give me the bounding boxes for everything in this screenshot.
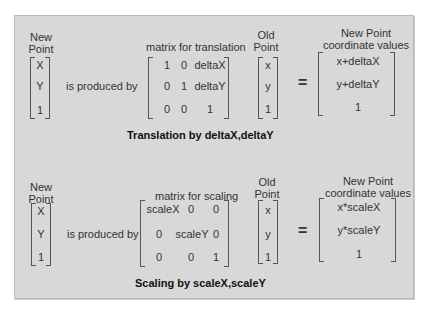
new-point-label: New Point bbox=[26, 181, 56, 205]
label-line: New Point bbox=[318, 175, 418, 187]
right-bracket bbox=[224, 200, 229, 267]
matrix-cell: deltaY bbox=[192, 80, 228, 92]
label-line: coordinate values bbox=[316, 39, 416, 51]
matrix-cell: 0 bbox=[209, 228, 223, 240]
matrix-cell: 0 bbox=[160, 103, 174, 115]
new-point-label: New Point bbox=[26, 31, 56, 55]
label-line: New Point bbox=[316, 27, 416, 39]
vector-cell: X bbox=[30, 59, 50, 71]
label-line: New bbox=[26, 181, 56, 193]
translation-caption: Translation by deltaX,deltaY bbox=[127, 129, 274, 141]
result-label: New Point coordinate values bbox=[318, 175, 418, 199]
produced-by-text: is produced by bbox=[67, 228, 139, 240]
result-cell: 1 bbox=[321, 248, 397, 260]
matrix-cell: 0 bbox=[177, 59, 191, 71]
label-line: Point bbox=[26, 43, 56, 55]
vector-cell: x bbox=[258, 59, 278, 71]
matrix-cell: 0 bbox=[209, 203, 223, 215]
matrix-cell: 0 bbox=[152, 228, 166, 240]
vector-cell: x bbox=[258, 204, 278, 216]
label-line: Old bbox=[251, 29, 281, 41]
left-bracket bbox=[148, 57, 153, 119]
result-cell: 1 bbox=[320, 101, 396, 113]
equals-sign: = bbox=[298, 222, 307, 240]
matrix-cell: 0 bbox=[152, 251, 166, 263]
matrix-cell: scaleY bbox=[174, 228, 210, 240]
result-label: New Point coordinate values bbox=[316, 27, 416, 51]
result-cell: y+deltaY bbox=[320, 78, 396, 90]
matrix-cell: 1 bbox=[209, 251, 223, 263]
matrix-label: matrix for translation bbox=[146, 41, 246, 53]
matrix-cell: deltaX bbox=[192, 59, 228, 71]
vector-cell: y bbox=[258, 228, 278, 240]
vector-cell: X bbox=[31, 205, 51, 217]
matrix-cell: 1 bbox=[177, 80, 191, 92]
matrix-cell: 1 bbox=[192, 103, 228, 115]
old-point-label: Old Point bbox=[252, 176, 282, 200]
result-cell: y*scaleY bbox=[321, 224, 397, 236]
vector-cell: 1 bbox=[258, 103, 278, 115]
matrix-cell: 0 bbox=[183, 251, 199, 263]
label-line: coordinate values bbox=[318, 187, 418, 199]
vector-cell: 1 bbox=[258, 251, 278, 263]
matrix-cell: 0 bbox=[160, 80, 174, 92]
matrix-cell: scaleX bbox=[145, 203, 181, 215]
matrix-cell: 0 bbox=[177, 103, 191, 115]
result-cell: x+deltaX bbox=[320, 55, 396, 67]
vector-cell: 1 bbox=[30, 104, 50, 116]
scaling-caption: Scaling by scaleX,scaleY bbox=[135, 277, 266, 289]
result-cell: x*scaleX bbox=[321, 201, 397, 213]
vector-cell: Y bbox=[30, 80, 50, 92]
vector-cell: 1 bbox=[31, 251, 51, 263]
old-point-label: Old Point bbox=[251, 29, 281, 53]
label-line: Old bbox=[252, 176, 282, 188]
label-line: Point bbox=[251, 41, 281, 53]
vector-cell: y bbox=[258, 80, 278, 92]
matrix-cell: 0 bbox=[183, 203, 199, 215]
equals-sign: = bbox=[298, 74, 307, 92]
vector-cell: Y bbox=[31, 228, 51, 240]
matrix-cell: 1 bbox=[160, 59, 174, 71]
label-line: New bbox=[26, 31, 56, 43]
produced-by-text: is produced by bbox=[66, 80, 138, 92]
label-line: Point bbox=[252, 188, 282, 200]
